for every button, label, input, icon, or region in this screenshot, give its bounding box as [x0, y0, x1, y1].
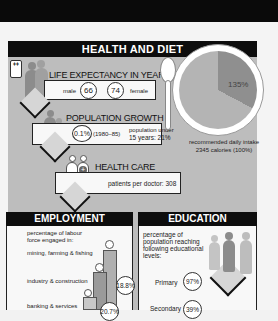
doctor-head-icon: [69, 155, 76, 162]
nurse-head-icon: [80, 155, 87, 162]
patients-per-doctor: patients per doctor: 308: [108, 180, 176, 187]
clipboard-icon: ǂǂ: [10, 60, 22, 78]
recommended-intake-caption: recommended daily intake 2345 calories (…: [184, 138, 264, 154]
student-head-icon: [211, 235, 218, 242]
education-row-label: Primary: [155, 279, 177, 286]
male-label: male: [63, 88, 76, 94]
primary-value-badge: 97%: [183, 272, 202, 291]
male-value-badge: 66: [80, 82, 97, 99]
employment-row-label: banking & services: [27, 303, 77, 309]
graduate-figure-icon: [240, 240, 252, 274]
population-growth-title: POPULATION GROWTH: [66, 113, 163, 123]
person-head-icon: [37, 60, 45, 68]
intake-line-2: 2345 calories (100%): [184, 146, 264, 154]
top-black-bar: [0, 0, 278, 22]
calorie-pie-chart: [179, 51, 257, 129]
employment-header: EMPLOYMENT: [6, 212, 133, 226]
employment-row-label: mining, farming & fishing: [27, 250, 93, 256]
worker-hardhat-icon: [95, 263, 104, 272]
student-figure-icon: [209, 242, 220, 270]
female-label: female: [130, 88, 148, 94]
education-header: EDUCATION: [138, 212, 257, 226]
graduate-head-icon: [242, 232, 250, 240]
banking-value-badge: 20.7%: [100, 302, 119, 321]
growth-period: (1980–85): [93, 131, 120, 137]
intake-line-1: recommended daily intake: [184, 138, 264, 146]
industry-value-badge: 18.8%: [116, 276, 135, 295]
education-row-label: Secondary: [150, 305, 181, 312]
female-value-badge: 74: [107, 82, 124, 99]
employment-row-label: industry & construction: [27, 278, 88, 284]
person-head-icon: [28, 62, 36, 70]
employment-bar-banking: [83, 297, 97, 310]
education-intro: percentage of population reaching follow…: [143, 231, 205, 259]
spoon-handle-icon: [165, 80, 171, 130]
student-figure-icon: [223, 240, 235, 272]
life-expectancy-title: LIFE EXPECTANCY IN YEARS: [49, 70, 170, 80]
banker-head-icon: [84, 289, 92, 297]
pie-percent-label: 135%: [228, 80, 248, 89]
farmer-head-icon: [105, 240, 114, 249]
health-care-title: HEALTH CARE: [95, 162, 155, 172]
employment-intro: percentage of labour force engaged in:: [27, 230, 97, 244]
under15-value: 15 years: 21%: [129, 134, 171, 141]
student-head-icon: [225, 232, 233, 240]
person-head-icon: [47, 110, 54, 117]
secondary-value-badge: 39%: [183, 300, 202, 319]
growth-rate-badge: 0.1%: [72, 125, 92, 142]
